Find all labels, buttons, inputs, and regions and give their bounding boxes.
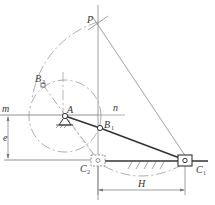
mechanism-diagram: P B 2 m n A B 1 e C 2 C 1 H: [0, 0, 215, 205]
ground-hatch: [128, 162, 164, 169]
label-e: e: [3, 132, 8, 143]
label-p: P: [86, 14, 93, 25]
link-b1-c1: [100, 128, 185, 160]
label-n: n: [113, 102, 118, 113]
link-a-b1: [65, 116, 100, 128]
bottom-arc: [104, 166, 180, 176]
e-arrow-top: [7, 116, 10, 121]
line-p-c1: [92, 16, 188, 160]
joint-c2: [96, 159, 100, 163]
label-c1-sub: 1: [203, 170, 206, 176]
label-h: H: [137, 178, 146, 189]
label-c2: C: [80, 163, 87, 174]
label-m: m: [2, 103, 9, 114]
label-c2-sub: 2: [87, 169, 90, 175]
label-b1-sub: 1: [111, 125, 114, 131]
label-c1: C: [196, 164, 203, 175]
joint-c1: [183, 158, 187, 162]
label-b2-sub: 2: [42, 79, 45, 85]
label-b2: B: [35, 73, 41, 84]
link-b2-c2: [43, 85, 98, 160]
label-a: A: [66, 104, 74, 115]
e-arrow-bottom: [7, 154, 10, 159]
h-arrow-right: [180, 189, 185, 192]
h-arrow-left: [98, 189, 103, 192]
joint-b1: [97, 125, 102, 130]
label-b1: B: [104, 119, 110, 130]
